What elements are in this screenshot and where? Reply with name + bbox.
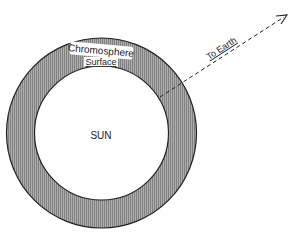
sun-diagram: Chromosphere Surface SUN To Earth bbox=[0, 0, 296, 239]
surface-label: Surface bbox=[85, 57, 116, 67]
sun-label: SUN bbox=[90, 130, 111, 141]
arrowhead-icon bbox=[276, 15, 287, 24]
earth-direction-line bbox=[160, 17, 284, 97]
